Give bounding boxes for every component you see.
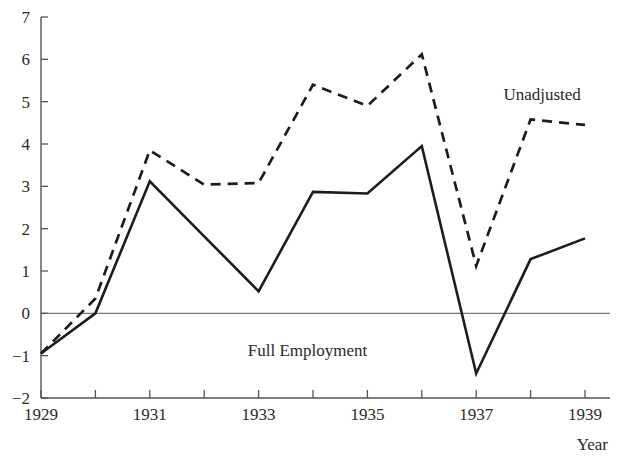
x-tick-label: 1931: [133, 405, 167, 424]
x-tick-label: 1929: [24, 405, 58, 424]
series-annotation-unadjusted: Unadjusted: [503, 85, 581, 104]
y-tick-label: 2: [22, 220, 31, 239]
y-tick-label: 0: [22, 304, 31, 323]
y-tick-label: 3: [22, 177, 31, 196]
y-tick-label: 1: [22, 262, 31, 281]
x-axis-title: Year: [577, 435, 609, 454]
y-tick-label: 5: [22, 93, 31, 112]
series-line-full-employment: [41, 146, 585, 373]
y-tick-label: 6: [22, 50, 31, 69]
chart-container: −2−101234567 192919311933193519371939 Un…: [0, 0, 630, 465]
y-tick-label: 4: [22, 135, 31, 154]
y-tick-label: 7: [22, 8, 31, 27]
x-axis-ticks: [41, 390, 585, 398]
series-annotation-full-employment: Full Employment: [248, 341, 368, 360]
x-tick-label: 1935: [350, 405, 384, 424]
x-tick-label: 1937: [459, 405, 494, 424]
x-tick-label: 1939: [568, 405, 602, 424]
x-axis-tick-labels: 192919311933193519371939: [24, 405, 602, 424]
line-chart-svg: −2−101234567 192919311933193519371939 Un…: [0, 0, 630, 465]
y-axis-ticks: [41, 17, 48, 398]
y-axis-tick-labels: −2−101234567: [12, 8, 31, 408]
y-tick-label: −1: [12, 347, 30, 366]
x-tick-label: 1933: [242, 405, 276, 424]
